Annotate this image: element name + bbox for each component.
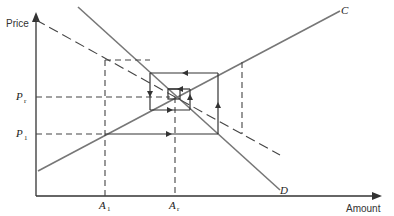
supply-curve-label: C [341, 4, 349, 16]
amount-tick-ar: A r [168, 199, 180, 213]
expectation-line [36, 20, 280, 155]
svg-text:1: 1 [107, 205, 111, 213]
cobweb-diagram: Price Amount C D [0, 0, 394, 216]
supply-curve [38, 11, 340, 171]
amount-tick-a1: A 1 [98, 199, 111, 213]
svg-text:r: r [177, 205, 180, 213]
svg-text:r: r [24, 97, 27, 105]
y-axis-label: Price [6, 18, 29, 29]
price-tick-p1: P 1 [15, 127, 28, 142]
arrow-right-icon [166, 131, 172, 137]
arrow-up-icon [215, 102, 221, 108]
arrow-right-icon [167, 107, 173, 113]
svg-text:P: P [15, 127, 23, 139]
arrow-up-icon [187, 94, 193, 100]
arrow-left-icon [182, 70, 188, 76]
x-axis-label: Amount [346, 203, 381, 214]
svg-text:A: A [168, 199, 176, 211]
x-axis-arrow-icon [372, 192, 382, 200]
arrow-down-icon [147, 91, 153, 97]
price-tick-pr: P r [15, 90, 27, 105]
svg-text:1: 1 [24, 134, 28, 142]
demand-curve-label: D [279, 184, 288, 196]
svg-text:A: A [98, 199, 106, 211]
svg-text:P: P [15, 90, 23, 102]
